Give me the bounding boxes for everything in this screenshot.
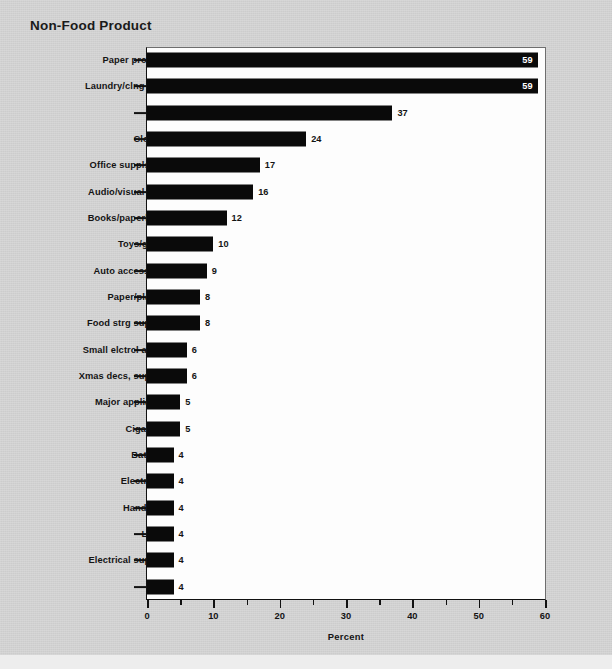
category-tick <box>134 59 146 61</box>
bar-value-label: 37 <box>397 108 407 118</box>
bar <box>147 263 207 278</box>
bar <box>147 527 174 542</box>
category-tick <box>134 533 146 535</box>
x-axis-minor-tick <box>313 600 315 605</box>
bar <box>147 316 200 331</box>
bar-value-label: 4 <box>179 450 184 460</box>
bar-value-label: 59 <box>522 81 532 91</box>
category-tick <box>134 296 146 298</box>
bar-row: Toys/games10 <box>0 231 612 257</box>
bar <box>147 500 174 515</box>
bar <box>147 184 253 199</box>
x-axis-title: Percent <box>328 631 365 642</box>
bar-value-label: 5 <box>185 397 190 407</box>
category-tick <box>134 507 146 509</box>
bar-value-label: 6 <box>192 345 197 355</box>
x-axis-minor-tick <box>247 600 249 605</box>
bar-value-label: 8 <box>205 292 210 302</box>
category-tick <box>134 244 146 246</box>
bar <box>147 342 187 357</box>
x-axis-major-tick <box>280 600 282 608</box>
bar-value-label: 24 <box>311 134 321 144</box>
x-axis-tick-label: 40 <box>407 611 417 621</box>
x-axis-major-tick <box>545 600 547 608</box>
bar <box>147 158 260 173</box>
bar-row: Tires4 <box>0 574 612 600</box>
category-tick <box>134 454 146 456</box>
bar-row: Xmas decs, supplies6 <box>0 363 612 389</box>
bar-row: Major appliances5 <box>0 389 612 415</box>
bar-value-label: 4 <box>179 503 184 513</box>
category-tick <box>134 86 146 88</box>
bar-row: Food strg supplies8 <box>0 310 612 336</box>
bar-row: HBA37 <box>0 100 612 126</box>
bar-row: Small elctrcl applnc6 <box>0 337 612 363</box>
x-axis-major-tick <box>147 600 149 608</box>
bar-row: Electrical supplies4 <box>0 547 612 573</box>
x-axis-major-tick <box>346 600 348 608</box>
bar-value-label: 12 <box>232 213 242 223</box>
bar <box>147 421 180 436</box>
bar-value-label: 10 <box>218 239 228 249</box>
bar <box>147 132 306 147</box>
x-axis-tick-label: 30 <box>341 611 351 621</box>
bar-row: Auto accessories9 <box>0 258 612 284</box>
bar <box>147 553 174 568</box>
bar <box>147 448 174 463</box>
category-tick <box>134 349 146 351</box>
bar <box>147 290 200 305</box>
bar-rows-container: Paper products59Laundry/clng sppls59HBA3… <box>0 47 612 600</box>
bar-row: Audio/visual sppls16 <box>0 179 612 205</box>
category-tick <box>134 402 146 404</box>
bar-value-label: 5 <box>185 424 190 434</box>
bar-value-label: 6 <box>192 371 197 381</box>
bar-row: Paper/plastics8 <box>0 284 612 310</box>
category-tick <box>134 191 146 193</box>
bar-value-label: 16 <box>258 187 268 197</box>
bar-row: Paper products59 <box>0 47 612 73</box>
x-axis-minor-tick <box>180 600 182 605</box>
bar-value-label: 17 <box>265 160 275 170</box>
category-tick <box>134 270 146 272</box>
x-axis-tick-label: 20 <box>274 611 284 621</box>
category-tick <box>134 323 146 325</box>
bar <box>147 579 174 594</box>
bar-row: Batteries4 <box>0 442 612 468</box>
category-tick <box>134 586 146 588</box>
x-axis-major-tick <box>479 600 481 608</box>
bar-row: Electronics4 <box>0 468 612 494</box>
bar-row: Cigarettes5 <box>0 416 612 442</box>
category-tick <box>134 560 146 562</box>
page-bottom-strip <box>0 655 612 669</box>
bar-row: Laundry/clng sppls59 <box>0 73 612 99</box>
bar-value-label: 8 <box>205 318 210 328</box>
bar <box>147 369 187 384</box>
category-tick <box>134 481 146 483</box>
bar <box>147 211 227 226</box>
bar-row: Office suppls/stny17 <box>0 152 612 178</box>
x-axis-major-tick <box>412 600 414 608</box>
bar <box>147 53 538 68</box>
category-tick <box>134 165 146 167</box>
category-tick <box>134 375 146 377</box>
x-axis-major-tick <box>213 600 215 608</box>
x-axis-minor-tick <box>379 600 381 605</box>
bar <box>147 395 180 410</box>
category-tick <box>134 138 146 140</box>
x-axis-tick-label: 0 <box>144 611 149 621</box>
category-tick <box>134 428 146 430</box>
x-axis-tick-label: 50 <box>473 611 483 621</box>
bar-row: Hand tools4 <box>0 495 612 521</box>
bar-value-label: 59 <box>522 55 532 65</box>
bar-value-label: 4 <box>179 555 184 565</box>
bar-row: Clothing24 <box>0 126 612 152</box>
bar <box>147 237 213 252</box>
x-axis-minor-tick <box>512 600 514 605</box>
bar <box>147 79 538 94</box>
bar-value-label: 9 <box>212 266 217 276</box>
bar-value-label: 4 <box>179 476 184 486</box>
x-axis-tick-label: 10 <box>208 611 218 621</box>
x-axis-tick-label: 60 <box>540 611 550 621</box>
bar <box>147 105 392 120</box>
bar-row: Books/paperbacks12 <box>0 205 612 231</box>
